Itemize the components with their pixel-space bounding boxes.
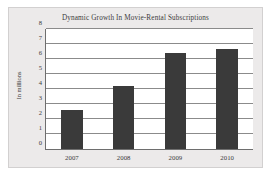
gridline xyxy=(46,28,253,29)
plot-wrap: 012345678 2007200820092010 xyxy=(45,29,253,150)
chart-panel: Dynamic Growth In Movie-Rental Subscript… xyxy=(8,7,263,168)
y-axis-tick-label: 0 xyxy=(39,139,42,146)
y-axis-tick-label: 1 xyxy=(39,124,42,131)
plot-area: 012345678 2007200820092010 xyxy=(45,29,253,150)
x-axis-tick-label: 2010 xyxy=(220,154,234,161)
chart-title: Dynamic Growth In Movie-Rental Subscript… xyxy=(9,14,262,22)
bar xyxy=(61,110,83,149)
y-axis-tick-label: 8 xyxy=(39,19,42,26)
y-axis-title: In millions xyxy=(15,56,22,116)
y-axis-tick-label: 5 xyxy=(39,64,42,71)
y-axis-tick-label: 7 xyxy=(39,34,42,41)
y-axis-tick-label: 3 xyxy=(39,94,42,101)
x-axis-tick-label: 2008 xyxy=(117,154,131,161)
bar xyxy=(165,53,187,149)
x-axis-tick-label: 2007 xyxy=(65,154,79,161)
y-axis-tick-label: 6 xyxy=(39,49,42,56)
x-axis-tick-label: 2009 xyxy=(169,154,183,161)
gridline xyxy=(46,43,253,44)
bar xyxy=(216,49,238,150)
bar xyxy=(113,86,135,149)
y-axis-tick-label: 4 xyxy=(39,79,42,86)
y-axis-tick-label: 2 xyxy=(39,109,42,116)
